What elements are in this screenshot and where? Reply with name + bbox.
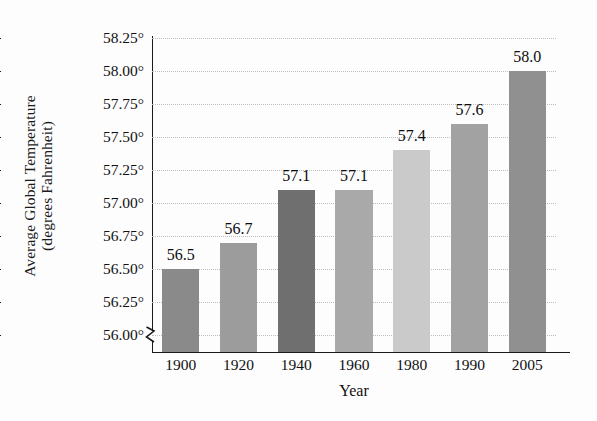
x-axis-title: Year	[152, 382, 556, 400]
y-axis-tick-label: 57.25°	[103, 161, 144, 179]
plot-area: 56.556.757.157.157.457.658.0	[152, 38, 556, 352]
bar[interactable]	[278, 190, 315, 352]
bar[interactable]	[509, 71, 546, 352]
y-axis-tick-mark	[0, 137, 1, 138]
bar-group[interactable]: 57.4	[393, 38, 430, 352]
x-axis-tick-label: 1960	[339, 356, 370, 374]
y-axis-tick-mark	[0, 335, 1, 336]
bar-value-label: 56.7	[225, 220, 253, 238]
y-axis-tick-label: 56.25°	[103, 293, 144, 311]
bar[interactable]	[393, 150, 430, 352]
bar[interactable]	[162, 269, 199, 352]
bar-value-label: 56.5	[167, 246, 195, 264]
bar-group[interactable]: 57.1	[278, 38, 315, 352]
y-axis-tick-mark	[0, 38, 1, 39]
bar[interactable]	[220, 243, 257, 352]
bar-chart: Average Global Temperature (degrees Fahr…	[0, 0, 597, 421]
y-axis-tick-label: 57.00°	[103, 194, 144, 212]
x-axis-tick-label: 1900	[165, 356, 196, 374]
x-axis-tick-label: 1990	[454, 356, 485, 374]
y-axis-tick-mark	[0, 269, 1, 270]
bar[interactable]	[451, 124, 488, 352]
bar-value-label: 57.1	[282, 167, 310, 185]
y-axis-title-line-1: Average Global Temperature	[21, 95, 38, 277]
x-axis-line	[152, 352, 570, 353]
y-axis-tick-label: 58.00°	[103, 62, 144, 80]
x-axis-tick-label: 2005	[512, 356, 543, 374]
bar-group[interactable]: 56.7	[220, 38, 257, 352]
y-axis-tick-label: 58.25°	[103, 29, 144, 47]
y-axis-tick-marks	[0, 38, 10, 352]
y-axis-tick-label: 56.50°	[103, 260, 144, 278]
bar-value-label: 57.4	[398, 127, 426, 145]
y-axis-title: Average Global Temperature (degrees Fahr…	[16, 26, 60, 346]
bar-value-label: 57.6	[455, 101, 483, 119]
x-axis-tick-label: 1940	[281, 356, 312, 374]
y-axis-tick-mark	[0, 236, 1, 237]
y-axis-tick-mark	[0, 170, 1, 171]
bar-value-label: 58.0	[513, 48, 541, 66]
x-axis-tick-label: 1920	[223, 356, 254, 374]
bar-series: 56.556.757.157.157.457.658.0	[152, 38, 556, 352]
y-axis-tick-label: 57.50°	[103, 128, 144, 146]
y-axis-tick-label: 56.75°	[103, 227, 144, 245]
y-axis-tick-label: 56.00°	[103, 326, 144, 344]
bar[interactable]	[335, 190, 372, 352]
y-axis-tick-mark	[0, 71, 1, 72]
x-axis-tick-labels: 1900192019401960198019902005	[152, 356, 556, 382]
bar-group[interactable]: 57.1	[335, 38, 372, 352]
y-axis-tick-mark	[0, 104, 1, 105]
y-axis-tick-mark	[0, 302, 1, 303]
y-axis-tick-labels: 56.00°56.25°56.50°56.75°57.00°57.25°57.5…	[56, 0, 148, 421]
y-axis-tick-mark	[0, 203, 1, 204]
x-axis-tick-label: 1980	[396, 356, 427, 374]
bar-group[interactable]: 57.6	[451, 38, 488, 352]
bar-group[interactable]: 56.5	[162, 38, 199, 352]
y-axis-title-line-2: (degrees Fahrenheit)	[38, 121, 55, 251]
bar-group[interactable]: 58.0	[509, 38, 546, 352]
y-axis-tick-label: 57.75°	[103, 95, 144, 113]
bar-value-label: 57.1	[340, 167, 368, 185]
